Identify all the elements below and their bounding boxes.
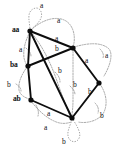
edge-label-mid-b-right: b	[73, 81, 77, 89]
node-group	[25, 28, 101, 120]
node-top[interactable]	[70, 45, 75, 50]
transition-diagram: aa ba ab a a a b a a a b b b b b a a b	[0, 0, 118, 148]
node-bottom[interactable]	[69, 115, 74, 120]
dotted-tick-right-upper	[100, 49, 103, 58]
edge-label-ab-bottom-a1: a	[47, 110, 50, 118]
edge-label-ab-bottom-a2: a	[44, 124, 47, 132]
edge-label-top-b: b	[55, 45, 59, 53]
node-label-aa: aa	[12, 26, 19, 34]
dotted-edge-group	[16, 8, 111, 142]
edge-label-aa-ba-a: a	[19, 46, 22, 54]
solid-edge-ba-ab	[28, 66, 31, 100]
edge-label-right-arc-a: a	[105, 52, 108, 60]
solid-edge-aa-ba	[28, 31, 30, 66]
solid-edge-ba-top	[28, 48, 73, 66]
dotted-arc-aa-top	[31, 18, 74, 47]
edge-label-curve-top-a: a	[57, 17, 60, 25]
node-aa[interactable]	[27, 28, 32, 33]
edge-label-right-bottom-b: b	[88, 88, 92, 96]
edge-label-loop-bottom-b: b	[62, 138, 66, 146]
solid-edge-top-right	[73, 48, 99, 83]
edge-label-loop-aa-a: a	[40, 2, 43, 10]
node-label-ba: ba	[10, 61, 18, 69]
dotted-tick-ab-bottom	[36, 105, 38, 116]
solid-edge-ab-bottom	[31, 100, 72, 118]
node-ab[interactable]	[28, 97, 33, 102]
node-ba[interactable]	[25, 63, 30, 68]
edge-label-aa-top-a: a	[55, 35, 58, 43]
edge-label-right-arc-b: b	[100, 112, 104, 120]
edge-label-mid-b-left: b	[58, 67, 62, 75]
node-right[interactable]	[96, 80, 101, 85]
node-label-ab: ab	[13, 95, 21, 103]
edge-label-top-right-a: a	[85, 57, 88, 65]
dotted-self-loop-aa	[29, 8, 42, 31]
dotted-tick-right-lower	[95, 103, 98, 113]
edge-label-ba-ab-b: b	[7, 81, 11, 89]
